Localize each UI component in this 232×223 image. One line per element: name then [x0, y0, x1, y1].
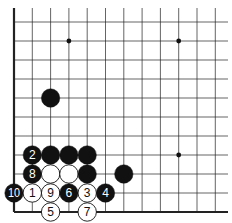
- black-stone: 8: [23, 165, 41, 183]
- go-board: 28101963457: [0, 0, 232, 223]
- star-point: [176, 153, 181, 158]
- move-number: 8: [29, 167, 36, 181]
- move-number: 7: [84, 205, 91, 219]
- white-stone: [41, 165, 59, 183]
- black-stone: 6: [60, 184, 78, 202]
- white-stone: 5: [41, 203, 59, 221]
- black-stone: [41, 89, 59, 107]
- star-point: [176, 39, 181, 44]
- black-stone: [60, 146, 78, 164]
- black-stone: [41, 146, 59, 164]
- move-number: 1: [29, 186, 36, 200]
- white-stone: 3: [78, 184, 96, 202]
- white-stone: [60, 165, 78, 183]
- star-point: [67, 39, 72, 44]
- white-stone: 7: [78, 203, 96, 221]
- move-number: 4: [102, 186, 109, 200]
- black-stone: 10: [5, 184, 23, 202]
- move-number: 5: [47, 205, 54, 219]
- move-number: 3: [84, 186, 91, 200]
- move-number: 6: [66, 186, 73, 200]
- white-stone: 9: [41, 184, 59, 202]
- white-stone: 1: [23, 184, 41, 202]
- black-stone: [115, 165, 133, 183]
- move-number: 2: [29, 148, 36, 162]
- black-stone: 2: [23, 146, 41, 164]
- black-stone: [78, 165, 96, 183]
- move-number: 10: [8, 186, 20, 200]
- black-stone: [78, 146, 96, 164]
- move-number: 9: [47, 186, 54, 200]
- black-stone: 4: [96, 184, 114, 202]
